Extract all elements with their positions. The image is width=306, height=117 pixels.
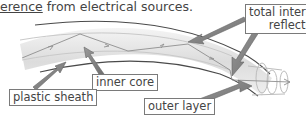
label-plastic-sheath: plastic sheath [9, 89, 97, 106]
label-tir-line2: reflection [249, 19, 306, 32]
arrow-total-internal-reflection-1 [188, 17, 246, 44]
label-outer-layer: outer layer [144, 98, 215, 115]
label-inner-core: inner core [92, 74, 158, 91]
label-total-internal-reflection: total internal reflection [245, 4, 306, 34]
